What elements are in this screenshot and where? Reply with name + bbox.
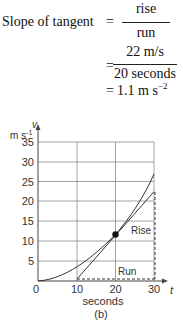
velocity-time-graph: 35 30 25 20 15 10 5 0 10 20 30 t v m s-1… [0,0,183,324]
x-axis-label: seconds [83,295,124,307]
x-axis-symbol: t [170,284,174,296]
x-axis-arrow-icon [162,279,168,284]
tangent-point [112,231,118,237]
run-label: Run [118,266,136,277]
y-tick-5: 5 [28,255,34,267]
caption: (b) [94,308,107,320]
y-tick-30: 30 [22,156,34,168]
y-units-text: m s [10,130,26,141]
x-tick-30: 30 [148,283,160,295]
y-tick-25: 25 [22,176,34,188]
x-tick-0: 0 [33,283,39,295]
y-units-exp: -1 [26,129,32,136]
x-tick-10: 10 [71,283,83,295]
x-tick-20: 20 [109,283,121,295]
rise-label: Rise [131,225,151,236]
axes [38,128,164,281]
y-tick-20: 20 [22,195,34,207]
y-tick-15: 15 [22,215,34,227]
y-tick-10: 10 [22,235,34,247]
